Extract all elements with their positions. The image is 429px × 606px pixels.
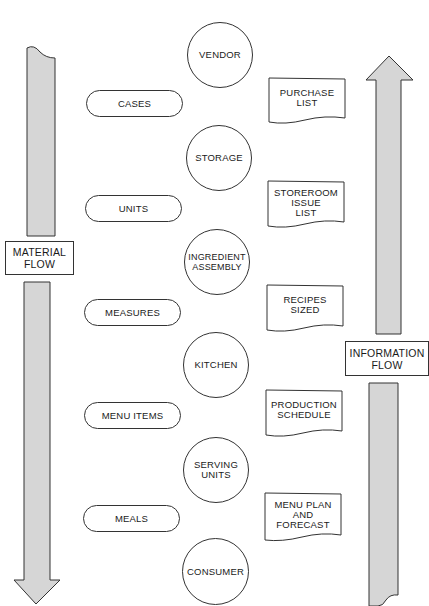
stage-ingredient-assembly: INGREDIENT ASSEMBLY [184,229,250,295]
stage-kitchen: KITCHEN [183,332,249,398]
unit-units: UNITS [85,195,182,222]
information-flow-arrow-lower [369,383,398,606]
document-menu-plan-and-forecast: MENU PLAN AND FORECAST [265,496,341,534]
unit-measures: MEASURES [84,299,181,326]
unit-meals: MEALS [83,505,180,532]
material-flow-arrow-lower [14,282,60,604]
information-flow-arrow-upper [366,56,413,334]
material-flow-arrow-upper [27,47,55,236]
stage-vendor: VENDOR [187,22,253,88]
document-storeroom-issue-list: STOREROOM ISSUE LIST [268,184,344,222]
material-flow-label: MATERIAL FLOW [5,241,74,275]
document-purchase-list: PURCHASE LIST [269,82,345,114]
stage-serving-units: SERVING UNITS [183,437,249,503]
stage-consumer: CONSUMER [182,538,249,605]
stage-storage: STORAGE [186,125,252,191]
document-production-schedule: PRODUCTION SCHEDULE [266,394,342,426]
unit-menu-items: MENU ITEMS [84,402,181,429]
document-recipes-sized: RECIPES SIZED [267,289,343,321]
unit-cases: CASES [86,90,183,117]
diagram-shapes [0,0,429,606]
information-flow-label: INFORMATION FLOW [345,341,429,376]
